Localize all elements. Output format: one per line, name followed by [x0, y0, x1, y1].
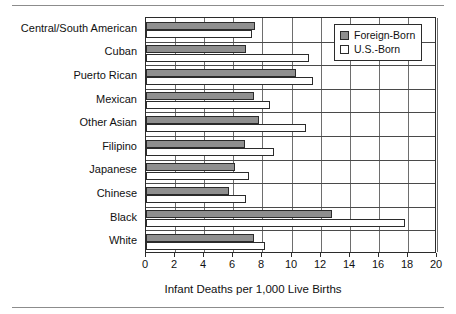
category-label-other-asian: Other Asian	[80, 117, 137, 128]
row-separator	[146, 136, 435, 137]
x-tick-label-20: 20	[430, 258, 442, 270]
x-tick-4	[203, 253, 204, 257]
x-tick-label-0: 0	[142, 258, 148, 270]
category-label-white: White	[109, 235, 137, 246]
bar-foreign-born-chinese	[146, 187, 229, 195]
x-tick-14	[349, 253, 350, 257]
x-tick-label-18: 18	[401, 258, 413, 270]
bar-u-s-born-puerto-rican	[146, 77, 313, 85]
row-separator	[146, 112, 435, 113]
x-tick-label-12: 12	[314, 258, 326, 270]
row-separator	[146, 183, 435, 184]
row-separator	[146, 160, 435, 161]
bar-foreign-born-japanese	[146, 163, 235, 171]
x-tick-16	[378, 253, 379, 257]
x-tick-label-4: 4	[200, 258, 206, 270]
x-tick-label-8: 8	[258, 258, 264, 270]
bar-u-s-born-japanese	[146, 172, 249, 180]
bar-u-s-born-central-south-american	[146, 30, 252, 38]
x-tick-label-10: 10	[285, 258, 297, 270]
chart-figure: Central/South AmericanCubanPuerto RicanM…	[0, 0, 456, 314]
x-axis: 02468101214161820	[145, 253, 436, 273]
bar-foreign-born-mexican	[146, 92, 254, 100]
top-rule	[12, 5, 444, 6]
category-label-filipino: Filipino	[102, 141, 137, 152]
row-separator	[146, 230, 435, 231]
x-tick-20	[436, 253, 437, 257]
row-separator	[146, 89, 435, 90]
bar-foreign-born-other-asian	[146, 116, 259, 124]
x-tick-2	[174, 253, 175, 257]
bar-foreign-born-black	[146, 210, 332, 218]
bar-foreign-born-puerto-rican	[146, 69, 296, 77]
legend-swatch-us-born-icon	[340, 45, 349, 54]
x-axis-title: Infant Deaths per 1,000 Live Births	[0, 283, 456, 295]
bottom-rule	[12, 307, 444, 308]
legend-swatch-foreign-born-icon	[340, 31, 349, 40]
x-tick-12	[320, 253, 321, 257]
legend-item-us-born: U.S.-Born	[340, 42, 415, 56]
bar-u-s-born-filipino	[146, 148, 274, 156]
bar-u-s-born-cuban	[146, 54, 309, 62]
x-tick-0	[145, 253, 146, 257]
x-tick-label-2: 2	[171, 258, 177, 270]
x-tick-label-14: 14	[343, 258, 355, 270]
x-tick-8	[261, 253, 262, 257]
category-label-mexican: Mexican	[96, 94, 137, 105]
bar-foreign-born-filipino	[146, 140, 245, 148]
gridline-20	[437, 18, 438, 252]
x-tick-6	[232, 253, 233, 257]
chart-legend: Foreign-Born U.S.-Born	[334, 24, 422, 61]
legend-label-foreign-born: Foreign-Born	[354, 30, 415, 41]
x-tick-10	[291, 253, 292, 257]
x-tick-18	[407, 253, 408, 257]
category-label-cuban: Cuban	[105, 46, 137, 57]
bar-foreign-born-cuban	[146, 45, 246, 53]
row-separator	[146, 65, 435, 66]
category-label-black: Black	[110, 212, 137, 223]
legend-label-us-born: U.S.-Born	[354, 44, 400, 55]
bar-foreign-born-central-south-american	[146, 22, 255, 30]
legend-item-foreign-born: Foreign-Born	[340, 28, 415, 42]
x-tick-label-16: 16	[372, 258, 384, 270]
bar-u-s-born-other-asian	[146, 124, 306, 132]
category-label-chinese: Chinese	[97, 188, 137, 199]
category-label-japanese: Japanese	[89, 164, 137, 175]
bar-u-s-born-chinese	[146, 195, 246, 203]
x-tick-label-6: 6	[229, 258, 235, 270]
bar-u-s-born-white	[146, 242, 265, 250]
x-axis-title-text: Infant Deaths per 1,000 Live Births	[114, 283, 341, 295]
row-separator	[146, 207, 435, 208]
category-label-central-south-american: Central/South American	[21, 23, 137, 34]
category-label-puerto-rican: Puerto Rican	[73, 70, 137, 81]
bar-u-s-born-black	[146, 219, 405, 227]
bar-u-s-born-mexican	[146, 101, 270, 109]
category-axis-labels: Central/South AmericanCubanPuerto RicanM…	[0, 17, 141, 253]
bar-foreign-born-white	[146, 234, 254, 242]
